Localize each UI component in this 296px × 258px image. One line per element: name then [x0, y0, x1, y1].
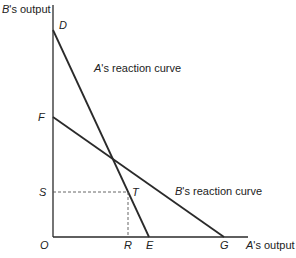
y-axis-label: B's output	[2, 3, 51, 15]
point-r-label: R	[124, 239, 132, 251]
origin-label: O	[40, 239, 49, 251]
a-reaction-curve-label: A's reaction curve	[93, 62, 181, 74]
point-f-label: F	[38, 111, 46, 123]
point-s-label: S	[39, 186, 47, 198]
point-t-label: T	[132, 186, 140, 198]
point-e-label: E	[146, 239, 154, 251]
point-g-label: G	[220, 239, 229, 251]
b-reaction-curve	[53, 117, 224, 237]
b-reaction-curve-label: B's reaction curve	[175, 185, 262, 197]
reaction-curve-diagram: B's output A's output D F S T O R E G A'…	[0, 0, 296, 258]
point-d-label: D	[59, 19, 67, 31]
x-axis-label: A's output	[245, 239, 295, 251]
